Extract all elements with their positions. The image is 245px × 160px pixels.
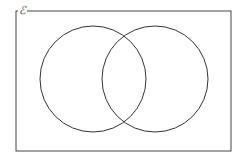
universal-set-label: ℰ [18,5,27,16]
universal-set-rectangle [16,11,231,151]
venn-diagram [0,0,245,160]
set-b-circle [102,26,208,132]
set-a-circle [40,26,146,132]
